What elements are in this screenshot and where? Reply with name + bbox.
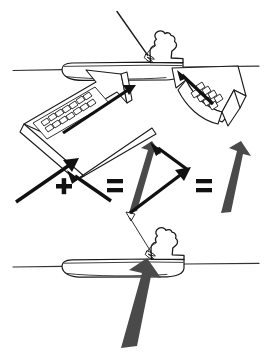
equation-term-current [16,158,79,202]
waterline-bottom-right [184,263,259,264]
resultant-arrow [221,141,251,213]
plus-sign [56,178,72,194]
vector-triangle [126,141,191,221]
waterline-bottom-left [13,266,62,267]
vector-diagram-svg: CURRENT WIND + = = [0,0,272,364]
equals-sign-2 [196,179,212,192]
wind-term-shaft [75,176,111,201]
paddle-shaft-top [117,12,148,56]
bottom-scene [13,228,259,348]
equals-sign-1 [107,179,123,192]
top-scene [13,12,259,181]
label-equals-2: = [2,36,11,53]
figure-canvas: CURRENT WIND + = = [0,0,272,364]
leader-line-to-canoe [130,218,151,252]
resultant-vector [221,141,251,213]
current-block-arrow [20,70,156,180]
waterline-top [13,70,62,71]
wind-block-arrow [172,66,246,126]
